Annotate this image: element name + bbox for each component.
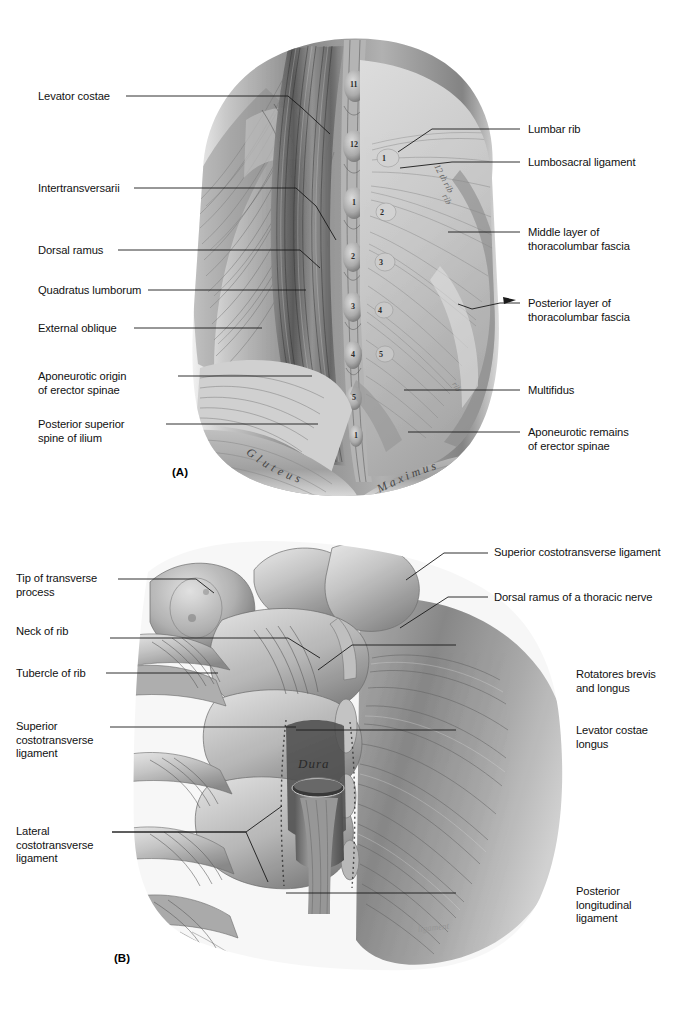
label-lateral-costotransverse-ligament: Lateral costotransverse ligament: [16, 825, 93, 866]
label-levator-costae-longus: Levator costae longus: [576, 724, 648, 751]
label-posterior-longitudinal-ligament: Posterior longitudinal ligament: [576, 885, 631, 926]
rib-number: 3: [379, 258, 383, 267]
label-superior-costotransverse-ligament-left: Superior costotransverse ligament: [16, 720, 93, 761]
vertebra-number: 1: [352, 198, 356, 207]
label-external-oblique: External oblique: [38, 322, 117, 336]
label-levator-costae: Levator costae: [38, 90, 110, 104]
rib-number: 2: [380, 208, 384, 217]
rib-number: 4: [378, 306, 382, 315]
label-rotatores-brevis-longus: Rotatores brevis and longus: [576, 668, 656, 695]
label-dorsal-ramus: Dorsal ramus: [38, 244, 103, 258]
panel-a-tag: (A): [172, 466, 188, 478]
label-tubercle-of-rib: Tubercle of rib: [16, 667, 86, 681]
label-quadratus-lumborum: Quadratus lumborum: [38, 284, 141, 298]
vertebra-number: 4: [351, 350, 355, 359]
label-neck-of-rib: Neck of rib: [16, 625, 68, 639]
vertebra-number: 1: [354, 431, 358, 440]
label-lumbosacral-ligament: Lumbosacral ligament: [528, 156, 635, 170]
rib-number: 5: [379, 350, 383, 359]
vertebra-number: 3: [351, 302, 355, 311]
rib-number: 1: [382, 154, 386, 163]
anatomy-plate: 12 th rib rib rib Gluteus: [0, 0, 685, 1015]
vertebra-number: 5: [352, 393, 356, 402]
vertebra-number: 2: [351, 252, 355, 261]
label-tip-of-transverse-process: Tip of transverse process: [16, 572, 97, 599]
label-aponeurotic-origin: Aponeurotic origin of erector spinae: [38, 370, 126, 397]
label-middle-layer-fascia: Middle layer of thoracolumbar fascia: [528, 226, 630, 253]
label-dorsal-ramus-thoracic-nerve: Dorsal ramus of a thoracic nerve: [494, 591, 652, 605]
label-aponeurotic-remains: Aponeurotic remains of erector spinae: [528, 426, 629, 453]
label-multifidus: Multifidus: [528, 384, 574, 398]
label-superior-costotransverse-ligament-right: Superior costotransverse ligament: [494, 546, 660, 560]
label-lumbar-rib: Lumbar rib: [528, 123, 580, 137]
panel-b-tag: (B): [114, 952, 130, 964]
label-posterior-layer-fascia: Posterior layer of thoracolumbar fascia: [528, 297, 630, 324]
vertebra-number: 11: [350, 80, 358, 89]
label-posterior-superior-spine: Posterior superior spine of ilium: [38, 418, 125, 445]
label-intertransversarii: Intertransversarii: [38, 182, 120, 196]
vertebra-number: 12: [350, 140, 358, 149]
